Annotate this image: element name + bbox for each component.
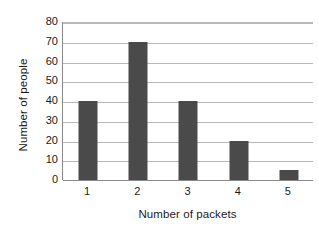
y-axis-tick-label: 30 bbox=[30, 115, 58, 126]
y-axis-tick-label: 60 bbox=[30, 56, 58, 67]
x-axis-tick-label: 3 bbox=[162, 184, 212, 198]
x-axis-tick-label: 1 bbox=[62, 184, 112, 198]
y-axis-title: Number of people bbox=[17, 25, 29, 185]
bar-slot bbox=[113, 23, 163, 180]
bar-slot bbox=[214, 23, 264, 180]
x-axis-tick-labels: 12345 bbox=[62, 184, 313, 202]
plot-area bbox=[62, 22, 313, 180]
y-axis-tick-label: 70 bbox=[30, 36, 58, 47]
bar[interactable] bbox=[279, 170, 298, 180]
bar-series bbox=[63, 23, 313, 180]
bar-slot bbox=[63, 23, 113, 180]
x-axis-tick-label: 4 bbox=[213, 184, 263, 198]
bar[interactable] bbox=[179, 101, 198, 180]
bar[interactable] bbox=[129, 42, 148, 180]
bar[interactable] bbox=[79, 101, 98, 180]
x-axis-line bbox=[63, 180, 313, 181]
y-axis-tick-label: 50 bbox=[30, 75, 58, 86]
y-axis-tick-label: 20 bbox=[30, 135, 58, 146]
x-axis-tick-label: 5 bbox=[263, 184, 313, 198]
x-axis-title: Number of packets bbox=[62, 208, 313, 220]
y-axis-tick-label: 10 bbox=[30, 154, 58, 165]
y-axis-tick-labels: 01020304050607080 bbox=[30, 22, 58, 180]
bar-slot bbox=[163, 23, 213, 180]
bar-slot bbox=[264, 23, 314, 180]
y-axis-tick-label: 0 bbox=[30, 174, 58, 185]
bar-chart: Number of people 01020304050607080 12345… bbox=[0, 0, 319, 242]
y-axis-tick-label: 40 bbox=[30, 95, 58, 106]
x-axis-tick-label: 2 bbox=[112, 184, 162, 198]
y-axis-tick-label: 80 bbox=[30, 16, 58, 27]
bar[interactable] bbox=[229, 141, 248, 181]
